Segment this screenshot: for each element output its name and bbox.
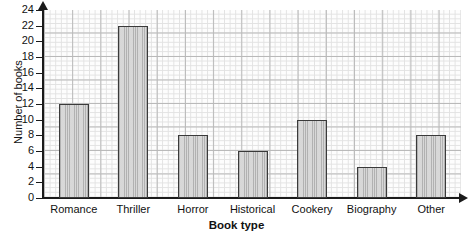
x-label-other: Other [391,203,471,215]
y-tick-4 [36,167,43,168]
y-tick-0 [36,198,43,199]
y-tick-10 [36,120,43,121]
y-tick-2 [36,182,43,183]
bar-chart: 024681012141618202224 RomanceThrillerHor… [0,0,473,237]
x-axis-title: Book type [0,219,473,231]
y-tick-22 [36,26,43,27]
y-tick-24 [36,10,43,11]
y-axis-arrow-icon [38,1,48,10]
bar-romance [59,104,89,198]
y-tick-8 [36,135,43,136]
y-tick-16 [36,73,43,74]
y-tick-14 [36,88,43,89]
bar-thriller [118,26,148,198]
y-tick-20 [36,41,43,42]
y-tick-18 [36,57,43,58]
bar-cookery [297,120,327,198]
y-axis-title: Number of books [12,22,24,182]
y-tick-12 [36,104,43,105]
bar-horror [178,135,208,198]
y-tick-label-0: 0 [0,192,34,203]
bar-historical [238,151,268,198]
y-tick-6 [36,151,43,152]
bar-biography [357,167,387,198]
bar-other [416,135,446,198]
y-tick-label-24: 24 [0,4,34,15]
x-axis-arrow-icon [459,193,468,203]
